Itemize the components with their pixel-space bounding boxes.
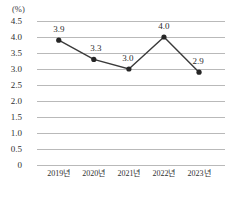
data-point-value-label: 4.0 — [158, 22, 169, 31]
y-axis-tick-label: 2.0 — [0, 97, 22, 106]
y-axis-tick-label: 1.5 — [0, 113, 22, 122]
x-axis-tick-label: 2019년 — [47, 169, 70, 178]
data-point-marker — [126, 66, 131, 71]
data-point-marker — [161, 34, 166, 39]
x-axis-tick-label: 2022년 — [152, 169, 175, 178]
x-axis-tick-label: 2020년 — [82, 169, 105, 178]
y-axis-tick-label: 4.0 — [0, 33, 22, 42]
data-point-marker — [56, 38, 61, 43]
y-axis-tick-label: 0.5 — [0, 145, 22, 154]
y-axis-tick-label: 3.5 — [0, 49, 22, 58]
plot-area — [37, 21, 225, 165]
y-axis-tick-label: 3.0 — [0, 65, 22, 74]
data-point-value-label: 2.9 — [192, 57, 203, 66]
gridline — [37, 165, 225, 166]
y-axis-tick-label: 4.5 — [0, 17, 22, 26]
y-axis-tick-label: 1.0 — [0, 129, 22, 138]
data-point-marker — [196, 70, 201, 75]
data-point-value-label: 3.0 — [122, 54, 133, 63]
data-point-value-label: 3.3 — [90, 44, 101, 53]
data-series-layer — [37, 21, 225, 165]
x-axis-tick-label: 2021년 — [117, 169, 140, 178]
line-chart: (%) 4.54.03.53.02.52.01.51.00.50 2019년20… — [0, 0, 235, 198]
y-axis-tick-label: 0 — [0, 161, 22, 170]
y-axis-tick-label: 2.5 — [0, 81, 22, 90]
data-point-value-label: 3.9 — [53, 25, 64, 34]
x-axis-tick-label: 2023년 — [188, 169, 211, 178]
data-point-marker — [91, 57, 96, 62]
y-axis-unit-label: (%) — [12, 4, 25, 14]
